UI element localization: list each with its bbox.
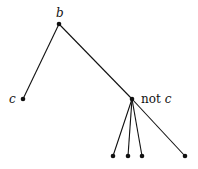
node-leaf2 xyxy=(126,154,131,159)
node-leaf1 xyxy=(111,154,116,159)
label-right-var: c xyxy=(165,92,172,106)
nodes xyxy=(21,22,188,159)
node-c xyxy=(21,97,26,102)
label-right-prefix: not xyxy=(141,92,161,106)
node-b xyxy=(57,22,62,27)
tree-diagram: b c notc xyxy=(0,0,198,169)
node-leaf4 xyxy=(183,154,188,159)
label-root: b xyxy=(56,6,64,20)
node-leaf3 xyxy=(140,154,145,159)
edges xyxy=(23,24,185,156)
label-left: c xyxy=(9,92,16,106)
edge-b-c xyxy=(23,24,59,99)
edge-b-notc xyxy=(59,24,132,99)
label-right: notc xyxy=(141,92,172,106)
node-notc xyxy=(130,97,135,102)
